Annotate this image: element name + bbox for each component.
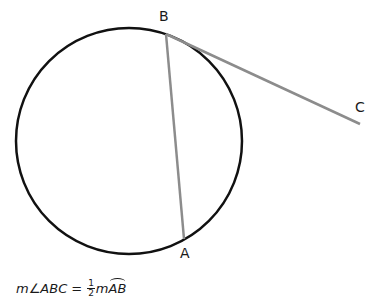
point-label-a: A: [180, 245, 190, 261]
arc-ab: AB: [109, 281, 127, 296]
circle: [16, 28, 242, 254]
point-label-c: C: [355, 99, 365, 115]
fraction-one-half: 1 2: [87, 279, 95, 298]
point-label-b: B: [159, 8, 169, 24]
fraction-denominator: 2: [88, 289, 94, 298]
formula-equals: =: [71, 281, 82, 296]
tangent-bc: [166, 34, 360, 124]
formula-lhs: m∠ABC: [16, 281, 67, 296]
formula-m: m: [96, 281, 109, 296]
angle-formula: m∠ABC = 1 2 m AB: [16, 279, 126, 298]
circle-diagram: [0, 0, 379, 308]
chord-ba: [166, 34, 184, 239]
